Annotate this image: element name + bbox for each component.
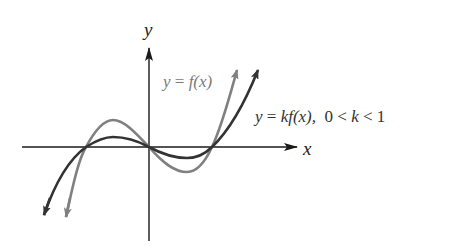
curve-kf-label-lhs: y bbox=[255, 107, 263, 126]
figure-canvas: y x y = f(x) y = kf(x), 0 < k < 1 bbox=[0, 0, 449, 248]
curve-kf-label-lt1: < bbox=[333, 107, 351, 126]
curve-kf-label-k: k bbox=[351, 107, 359, 126]
curve-kf-label-space bbox=[316, 107, 325, 126]
curve-kf-label-lt2: < bbox=[359, 107, 377, 126]
curve-kf-left-arrow bbox=[44, 198, 50, 215]
curve-kf-label-rhs: kf(x), bbox=[281, 107, 316, 126]
curve-kf-label-eq: = bbox=[263, 107, 281, 126]
curve-kf-label: y = kf(x), 0 < k < 1 bbox=[255, 108, 385, 125]
curve-kf-label-zero: 0 bbox=[325, 107, 334, 126]
curve-f-label-lhs: y bbox=[163, 72, 171, 91]
y-axis-label: y bbox=[144, 20, 152, 39]
curve-f-label: y = f(x) bbox=[163, 73, 212, 90]
x-axis-label: x bbox=[303, 139, 311, 158]
curve-kf bbox=[44, 70, 258, 215]
curve-f-label-rhs: f(x) bbox=[189, 72, 213, 91]
curve-f-label-eq: = bbox=[171, 72, 189, 91]
curve-kf-label-one: 1 bbox=[377, 107, 386, 126]
